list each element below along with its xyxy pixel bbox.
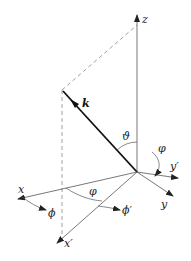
x-axis [18, 172, 137, 199]
varphi-top-label: φ [158, 142, 166, 155]
theta-label: ϑ [122, 130, 130, 143]
varphi-bottom-label: φ [89, 185, 97, 198]
phi-prime-arrow [98, 206, 120, 210]
varphi-top-arc [152, 152, 159, 176]
z-axis-label: z [141, 13, 148, 26]
theta-arc [117, 142, 137, 150]
x-axis-label: x [18, 183, 25, 196]
phi-label: ϕ [48, 207, 56, 220]
x-prime-axis-label: x′ [64, 237, 73, 250]
y-axis-label: y [160, 198, 168, 211]
k-to-z-dashed-line [62, 25, 137, 90]
y-prime-axis-label: y′ [169, 160, 179, 173]
phi-prime-label: ϕ′ [122, 204, 132, 217]
phi-arrow [22, 197, 46, 210]
coordinate-diagram: z k ϑ x x′ y y′ φ φ ϕ ϕ′ [0, 0, 191, 261]
k-vector-label: k [82, 97, 90, 110]
